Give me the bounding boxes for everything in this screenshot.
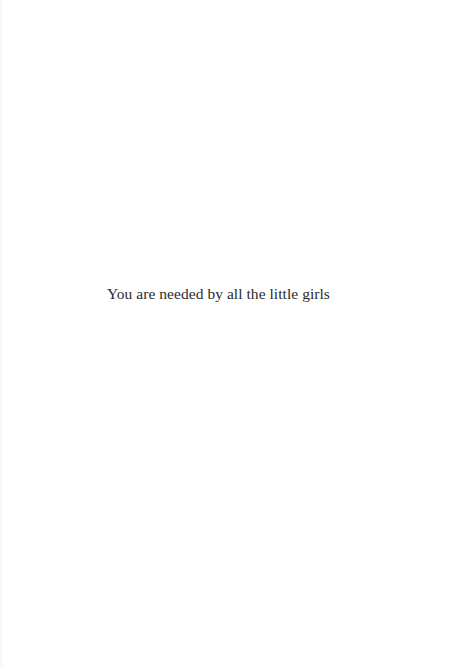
- page-text-line: You are needed by all the little girls: [0, 284, 437, 304]
- page-edge-shadow: [0, 0, 3, 666]
- book-page: You are needed by all the little girls: [0, 0, 461, 666]
